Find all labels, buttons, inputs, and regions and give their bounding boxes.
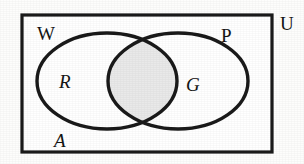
venn-diagram-figure: W P U R G A [0,0,304,164]
left-region-label: R [59,72,71,91]
right-set-label: P [221,26,232,45]
right-region-label: G [186,75,200,94]
left-set-label: W [37,24,55,43]
bottom-region-label: A [54,131,66,150]
universal-set-label: U [280,14,294,33]
